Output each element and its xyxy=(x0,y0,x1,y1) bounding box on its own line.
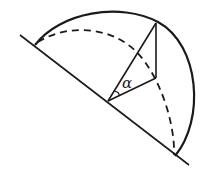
angle-alpha-label: α xyxy=(122,74,132,92)
diagram-canvas: α xyxy=(0,0,215,176)
outer-arc xyxy=(35,12,194,156)
diagram-svg: α xyxy=(0,0,215,176)
inner-dashed-arc xyxy=(38,30,174,155)
